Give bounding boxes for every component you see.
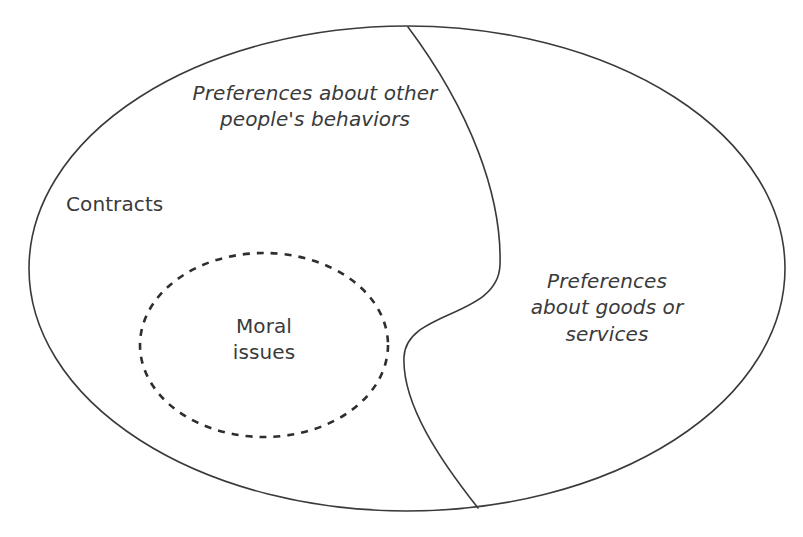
region-label-moral-issues: Moral issues xyxy=(194,313,334,366)
region-label-goods-services: Preferences about goods or services xyxy=(512,268,702,347)
region-label-other-behaviors: Preferences about other people's behavio… xyxy=(170,80,460,133)
diagram-canvas: Preferences about other people's behavio… xyxy=(0,0,803,537)
region-label-contracts: Contracts xyxy=(66,191,246,217)
